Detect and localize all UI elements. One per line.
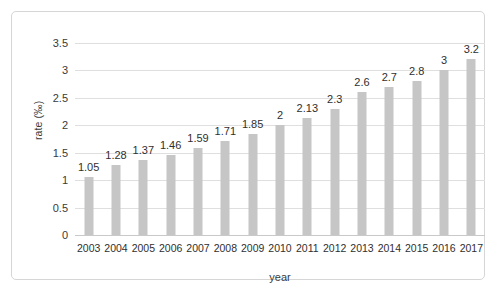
bar-group: 1.372005 [130, 43, 157, 235]
bar [193, 148, 202, 235]
bar-value-label: 3 [441, 55, 447, 66]
bar-value-label: 2.6 [354, 77, 369, 88]
y-axis-tick-label: 1.5 [53, 147, 68, 158]
bar-group: 2.62013 [348, 43, 375, 235]
plot-area: 00.511.522.533.5 1.0520031.2820041.37200… [75, 43, 485, 235]
bar-value-label: 1.05 [78, 162, 99, 173]
bar [221, 141, 230, 235]
bar [412, 81, 421, 235]
bar-value-label: 1.46 [160, 140, 181, 151]
bar [275, 125, 284, 235]
x-axis-title: year [75, 271, 485, 283]
bar [303, 118, 312, 235]
y-axis-tick-label: 0.5 [53, 202, 68, 213]
y-axis-tick-label: 2.5 [53, 92, 68, 103]
x-axis-tick-label: 2017 [460, 243, 483, 254]
bar-value-label: 1.37 [133, 145, 154, 156]
x-axis-tick-label: 2016 [432, 243, 455, 254]
x-axis-tick-label: 2015 [405, 243, 428, 254]
bar-group: 1.852009 [239, 43, 266, 235]
x-axis-tick-label: 2010 [268, 243, 291, 254]
bar-value-label: 2.13 [297, 103, 318, 114]
bar [357, 92, 366, 235]
bar-group: 32016 [430, 43, 457, 235]
bar-value-label: 3.2 [464, 44, 479, 55]
x-axis-tick-label: 2014 [378, 243, 401, 254]
x-axis-tick-label: 2012 [323, 243, 346, 254]
x-axis-tick-label: 2005 [132, 243, 155, 254]
y-axis-tick-label: 1 [62, 175, 68, 186]
bar-series: 1.0520031.2820041.3720051.4620061.592007… [75, 43, 485, 235]
bar-value-label: 1.28 [105, 150, 126, 161]
x-axis-tick-label: 2008 [214, 243, 237, 254]
x-axis-tick-label: 2009 [241, 243, 264, 254]
bar-value-label: 2 [277, 110, 283, 121]
x-axis-tick-label: 2011 [296, 243, 319, 254]
bar-value-label: 2.3 [327, 94, 342, 105]
x-axis-tick-label: 2004 [104, 243, 127, 254]
chart-frame: rate (‰) 00.511.522.533.5 1.0520031.2820… [11, 11, 485, 280]
y-axis-tick-label: 0 [62, 230, 68, 241]
y-axis-tick-label: 3.5 [53, 38, 68, 49]
x-axis-tick-label: 2007 [186, 243, 209, 254]
bar [248, 134, 257, 235]
bar-group: 1.592007 [184, 43, 211, 235]
bar-group: 1.462006 [157, 43, 184, 235]
bar [139, 160, 148, 235]
x-axis-tick-label: 2006 [159, 243, 182, 254]
bar-value-label: 1.85 [242, 119, 263, 130]
bar [330, 109, 339, 235]
y-axis-title: rate (‰) [32, 101, 44, 140]
bar [385, 87, 394, 235]
chart-figure: rate (‰) 00.511.522.533.5 1.0520031.2820… [0, 0, 500, 296]
bar-value-label: 1.71 [215, 126, 236, 137]
bar-group: 2.32012 [321, 43, 348, 235]
x-axis-tick-label: 2013 [350, 243, 373, 254]
bar [166, 155, 175, 235]
bar-group: 2.132011 [294, 43, 321, 235]
bar-group: 3.22017 [458, 43, 485, 235]
y-axis-tick-label: 2 [62, 120, 68, 131]
bar-value-label: 2.8 [409, 66, 424, 77]
bar [111, 165, 120, 235]
bar-value-label: 2.7 [382, 72, 397, 83]
x-axis-tick-label: 2003 [77, 243, 100, 254]
bar-group: 2.72014 [376, 43, 403, 235]
bar [439, 70, 448, 235]
y-axis-tick-label: 3 [62, 65, 68, 76]
bar [467, 59, 476, 235]
bar-group: 1.052003 [75, 43, 102, 235]
bar-group: 22010 [266, 43, 293, 235]
bar [84, 177, 93, 235]
gridline [75, 235, 485, 236]
bar-group: 2.82015 [403, 43, 430, 235]
bar-group: 1.712008 [212, 43, 239, 235]
bar-group: 1.282004 [102, 43, 129, 235]
bar-value-label: 1.59 [187, 133, 208, 144]
